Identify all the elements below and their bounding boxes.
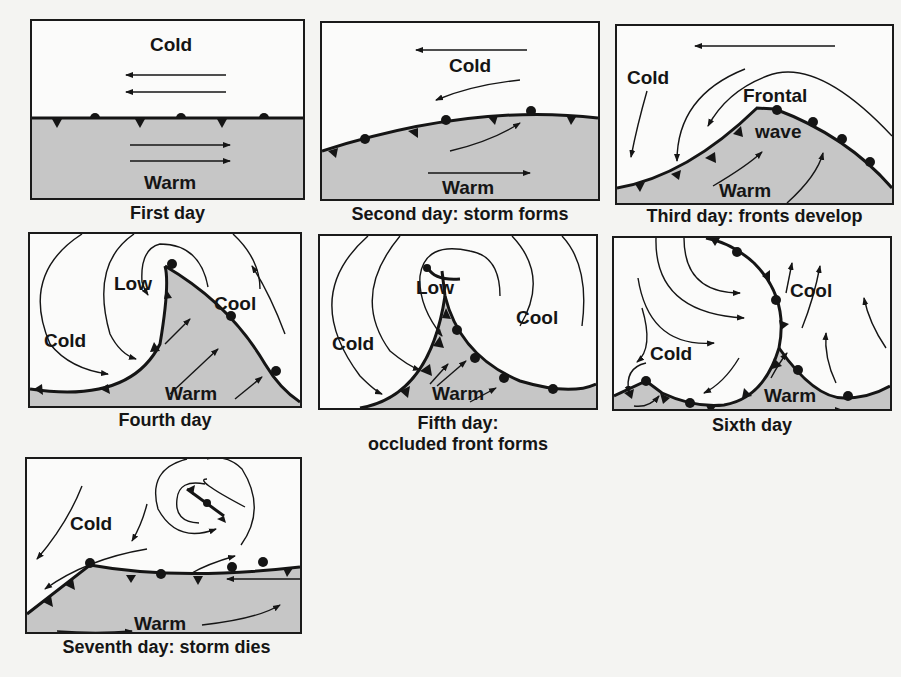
label-warm: Warm [134,614,186,633]
third-day-diagram [617,26,892,203]
caption-fourth-day: Fourth day [28,410,302,431]
label-warm: Warm [165,384,217,403]
second-day-diagram [322,23,598,199]
label-warm: Warm [144,173,196,192]
label-cold: Cold [650,344,692,363]
label-wave: wave [755,122,801,141]
label-cool: Cool [516,308,558,327]
sixth-day-diagram [614,238,890,409]
caption-first-day: First day [30,203,305,224]
label-warm: Warm [432,384,484,403]
panel-seventh-day: Cold Warm [25,457,302,634]
label-cold: Cold [449,56,491,75]
label-cool: Cool [214,294,256,313]
label-low: Low [114,274,152,293]
label-low: Low [416,278,454,297]
fourth-day-diagram [30,234,300,406]
label-frontal: Frontal [743,86,807,105]
panel-fifth-day: Low Cool Cold Warm [318,234,598,410]
label-cold: Cold [44,331,86,350]
panel-sixth-day: Cool Cold Warm [612,236,892,411]
caption-sixth-day: Sixth day [612,415,892,436]
label-cold: Cold [150,35,192,54]
panel-second-day: Cold Warm [320,21,600,201]
label-cool: Cool [790,281,832,300]
panel-fourth-day: Low Cool Cold Warm [28,232,302,408]
caption-third-day: Third day: fronts develop [613,206,896,227]
seventh-day-diagram [27,459,300,632]
caption-fifth-day: Fifth day: occluded front forms [316,413,600,455]
panel-third-day: Cold Frontal wave Warm [615,24,894,205]
label-cold: Cold [627,68,669,87]
label-warm: Warm [442,178,494,197]
panel-first-day: Cold Warm [30,19,305,200]
label-warm: Warm [719,181,771,200]
label-warm: Warm [764,386,816,405]
label-cold: Cold [70,514,112,533]
caption-fifth-day-line2: occluded front forms [316,434,600,455]
label-cold: Cold [332,334,374,353]
caption-seventh-day: Seventh day: storm dies [25,637,308,658]
caption-fifth-day-line1: Fifth day: [316,413,600,434]
caption-second-day: Second day: storm forms [318,204,602,225]
